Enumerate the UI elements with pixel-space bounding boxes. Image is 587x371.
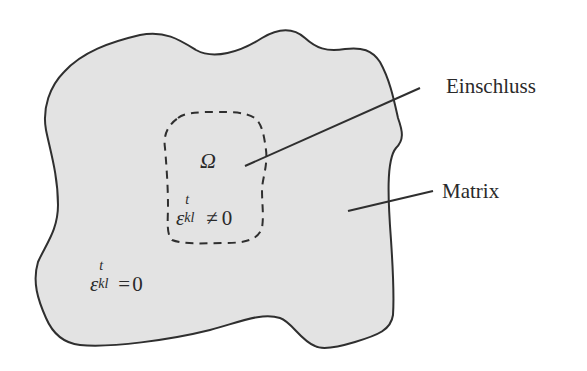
matrix-strain-expression: εtkl=0 (90, 271, 143, 295)
inclusion-strain-expression: εtkl≠0 (176, 205, 232, 229)
diagram-canvas: Einschluss Matrix Ω εtkl≠0 εtkl=0 (0, 0, 587, 371)
matrix-label: Matrix (442, 181, 499, 202)
strain-relation: = (118, 272, 130, 296)
matrix-body-shape (36, 30, 402, 348)
strain-subscript: kl (184, 211, 194, 225)
strain-symbol: ε (176, 206, 184, 230)
strain-value: 0 (132, 272, 143, 296)
strain-subscript: kl (98, 277, 108, 291)
strain-indices: tkl (184, 205, 202, 225)
strain-superscript: t (99, 259, 103, 273)
strain-symbol: ε (90, 272, 98, 296)
omega-symbol: Ω (200, 150, 216, 172)
strain-value: 0 (222, 206, 233, 230)
strain-indices: tkl (98, 271, 116, 291)
einschluss-label: Einschluss (446, 76, 536, 97)
strain-relation: ≠ (206, 206, 218, 230)
strain-superscript: t (185, 193, 189, 207)
